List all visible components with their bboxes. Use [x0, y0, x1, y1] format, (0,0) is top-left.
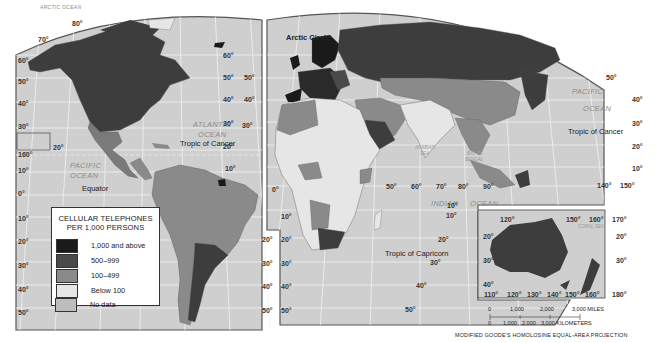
legend-label: 500–999: [91, 256, 119, 265]
lat-label: 10°: [446, 212, 457, 219]
lat-label: 40°: [244, 96, 255, 103]
ocean-label-pacific-west-2: OCEAN: [70, 171, 98, 180]
legend-swatch: [55, 298, 77, 312]
lat-label: 20°: [483, 233, 494, 240]
lat-label: 50°: [18, 78, 29, 85]
lat-label: 10°: [18, 215, 29, 222]
lat-label: 70°: [38, 36, 49, 43]
arctic-circle-label: Arctic Circle: [286, 34, 330, 42]
lat-label: 50°: [281, 307, 292, 314]
lat-label: 30°: [483, 257, 494, 264]
lat-label: 50°: [18, 309, 29, 316]
legend-swatch: [56, 269, 78, 283]
ocean-label-arctic: ARCTIC OCEAN: [40, 4, 81, 10]
lat-label: 40°: [223, 96, 234, 103]
scale-km-3000: 3,000 KILOMETERS: [541, 321, 592, 327]
lat-label: 60°: [223, 52, 234, 59]
lat-label: 50°: [262, 307, 273, 314]
lat-label: 20°: [18, 238, 29, 245]
lat-label: 20°: [262, 236, 273, 243]
lat-label: 20°: [616, 233, 627, 240]
legend-title-line1: CELLULAR TELEPHONES: [52, 214, 159, 223]
lon-label: 70°: [436, 183, 447, 190]
lon-label: 50°: [386, 183, 397, 190]
lat-label: 30°: [616, 257, 627, 264]
legend-title: CELLULAR TELEPHONES PER 1,000 PERSONS: [52, 214, 159, 232]
lon-label: 80°: [458, 183, 469, 190]
legend-item: No data: [55, 297, 116, 312]
lat-label: 20°: [223, 143, 234, 150]
lat-label: 80°: [72, 20, 83, 27]
tropic-of-cancer-east-label: Tropic of Cancer: [568, 128, 623, 136]
legend-swatch: [56, 239, 78, 253]
legend-item: 500–999: [56, 253, 119, 268]
lon-label: 130°: [527, 291, 541, 298]
map-legend: CELLULAR TELEPHONES PER 1,000 PERSONS 1,…: [51, 207, 160, 306]
lat-label: 0°: [272, 186, 279, 193]
sea-label-bay-of-bengal-2: BENGAL: [465, 158, 483, 163]
lat-label: 10°: [225, 165, 236, 172]
lat-label: 40°: [632, 96, 643, 103]
lat-label: 60°: [18, 57, 29, 64]
projection-caption: MODIFIED GOODE'S HOMOLOSINE EQUAL-AREA P…: [455, 332, 628, 338]
lat-label: 40°: [18, 100, 29, 107]
legend-item: Below 100: [56, 283, 125, 298]
lon-label: 140°: [547, 291, 561, 298]
lat-label: 20°: [632, 143, 643, 150]
lon-label: 60°: [411, 183, 422, 190]
lat-label: 0°: [18, 190, 25, 197]
lon-label: 160°: [589, 216, 603, 223]
lon-label: 110°: [484, 291, 498, 298]
lon-label: 170°: [612, 216, 626, 223]
lat-label: 50°: [244, 74, 255, 81]
lat-label: 20°: [281, 236, 292, 243]
lat-label: 10°: [281, 213, 292, 220]
legend-swatch: [56, 284, 78, 298]
scale-km-2000: 2,000: [522, 321, 536, 327]
ocean-label-indian-2: OCEAN: [470, 199, 498, 208]
ocean-label-atlantic-2: OCEAN: [198, 130, 226, 139]
legend-swatch: [56, 254, 78, 268]
legend-label: Below 100: [91, 286, 125, 295]
ocean-label-pacific-east-2: OCEAN: [583, 104, 611, 113]
lon-label: 160°: [585, 291, 599, 298]
scale-miles-2000: 2,000: [540, 307, 554, 313]
lon-label: 160°: [18, 151, 32, 158]
lat-label: 30°: [242, 122, 253, 129]
lat-label: 40°: [483, 281, 494, 288]
scale-miles-1000: 1,000: [510, 307, 524, 313]
legend-item: 100–499: [56, 268, 119, 283]
region-southern-africa-west: [310, 200, 330, 230]
lat-label: 30°: [18, 123, 29, 130]
lon-label: 90°: [483, 183, 494, 190]
legend-item: 1,000 and above: [56, 238, 145, 253]
lat-label: 40°: [262, 283, 273, 290]
lon-label: 150°: [620, 182, 634, 189]
lon-label: 150°: [566, 216, 580, 223]
lat-label: 50°: [606, 74, 617, 81]
lon-label: 120°: [507, 291, 521, 298]
lat-label: 40°: [416, 282, 427, 289]
lat-label: 30°: [281, 260, 292, 267]
legend-title-line2: PER 1,000 PERSONS: [52, 223, 159, 232]
sea-label-arabian-2: SEA: [420, 152, 429, 157]
region-french-guiana: [218, 179, 226, 186]
scale-miles-0: 0: [488, 307, 491, 313]
lon-label: 150°: [565, 291, 579, 298]
lat-label: 50°: [223, 74, 234, 81]
ocean-label-pacific-east-1: PACIFIC: [572, 87, 603, 96]
lon-label: 120°: [500, 216, 514, 223]
legend-label: 100–499: [91, 271, 119, 280]
lat-label: 30°: [223, 120, 234, 127]
lat-label: 30°: [262, 260, 273, 267]
lat-label: 40°: [18, 286, 29, 293]
legend-label: 1,000 and above: [91, 241, 145, 250]
region-kenya: [360, 168, 372, 184]
lat-label: 20°: [438, 236, 449, 243]
lat-label: 50°: [405, 306, 416, 313]
equator-label: Equator: [82, 185, 108, 193]
lat-label: 30°: [18, 262, 29, 269]
lon-label: 180°: [612, 291, 626, 298]
scale-km-1000: 1,000: [503, 321, 517, 327]
scale-km-0: 0: [488, 321, 491, 327]
